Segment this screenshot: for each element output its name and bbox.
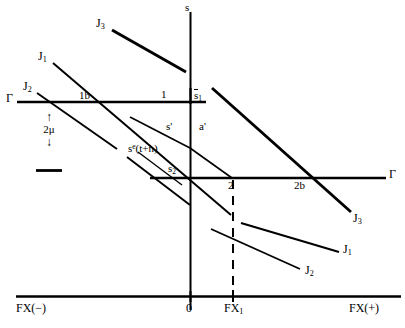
curve-j3-segment-upper: [112, 30, 186, 72]
band-arrow-down-icon: ↓: [46, 136, 52, 148]
curve-label-j1-top: J1: [38, 50, 47, 64]
band-arrow-up-icon: ↑: [46, 111, 52, 123]
fx-positive-axis-label: FX(+): [349, 302, 379, 314]
curve-j2-segment-b: [127, 157, 190, 205]
fx-negative-axis-label: FX(−): [16, 302, 46, 314]
point-label-a-prime: a': [199, 121, 206, 132]
curve-label-j3-bottom: J3: [353, 212, 362, 226]
point-label-2: 2: [228, 180, 234, 191]
curve-label-j1-bottom: J1: [343, 243, 352, 257]
curve-label-s-expected: se(t+n): [128, 143, 158, 154]
gamma-upper-label: Γ: [6, 92, 13, 104]
economics-diagram-figure: s J3 J1 J2 Γ Γ 1b 1 s1 s' a' se(t+n) s2 …: [0, 0, 405, 328]
curve-j1-segment-lower: [241, 223, 339, 252]
curve-label-j3-top: J3: [96, 17, 105, 31]
point-label-s1-bar: s1: [194, 89, 202, 102]
curve-label-j2-bottom: J2: [305, 264, 314, 278]
point-label-1b: 1b: [79, 90, 90, 101]
curve-label-j2-top: J2: [23, 80, 32, 94]
band-width-label: 2μ: [43, 124, 54, 135]
diagram-canvas: [0, 0, 405, 328]
curve-s-expected-lower: [190, 148, 232, 178]
gamma-lower-label: Γ: [389, 168, 396, 180]
curve-j2-segment-c: [211, 229, 300, 269]
band-width-annotation: ↑ 2μ ↓: [36, 111, 62, 148]
curve-j1-segment-upper: [53, 63, 231, 215]
fx1-axis-label: FX1: [224, 302, 243, 316]
curve-j3-segment-lower: [212, 88, 351, 212]
s-axis-label: s: [185, 2, 189, 13]
point-label-2b: 2b: [294, 180, 305, 191]
point-label-s2: s2: [168, 163, 176, 175]
point-label-s-prime: s': [166, 121, 172, 132]
origin-label: 0: [186, 302, 192, 314]
point-label-1: 1: [161, 89, 167, 100]
